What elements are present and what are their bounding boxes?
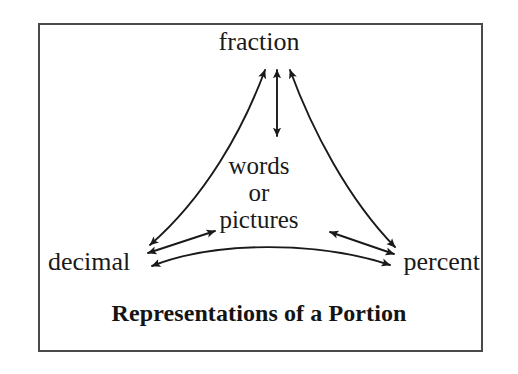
figure-title: Representations of a Portion bbox=[0, 300, 518, 327]
center-line-2: or bbox=[0, 179, 518, 206]
arrow-decimal-center bbox=[148, 231, 215, 253]
arrow-decimal-percent bbox=[152, 247, 390, 266]
node-label-center: words or pictures bbox=[0, 152, 518, 233]
node-label-percent: percent bbox=[403, 248, 480, 276]
node-label-decimal: decimal bbox=[48, 248, 130, 276]
node-label-fraction: fraction bbox=[0, 28, 518, 56]
center-line-3: pictures bbox=[0, 206, 518, 233]
center-line-1: words bbox=[0, 152, 518, 179]
figure-root: fraction decimal percent words or pictur… bbox=[0, 0, 518, 374]
